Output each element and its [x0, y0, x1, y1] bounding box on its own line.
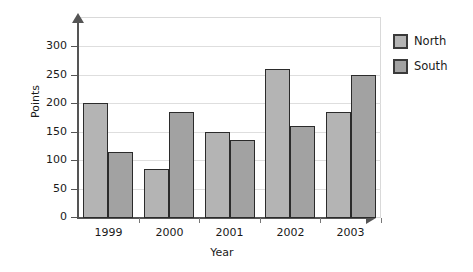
x-axis-tick-label: 1999 [78, 226, 139, 239]
x-axis-tick [381, 218, 382, 223]
legend-label-north: North [414, 35, 446, 47]
bar-north-1999 [83, 103, 108, 218]
y-axis-tick-label: 150 [46, 126, 67, 137]
y-axis-tick [71, 217, 77, 218]
y-axis-tick-label: 250 [46, 69, 67, 80]
legend-item-north[interactable]: North [393, 33, 447, 49]
y-axis-tick-label: 200 [46, 97, 67, 108]
chart-legend: North South [393, 33, 447, 83]
x-axis-tick-label: 2002 [260, 226, 321, 239]
bar-north-2003 [326, 112, 351, 218]
gridline [78, 75, 381, 76]
bar-south-2000 [169, 112, 194, 218]
x-axis-tick-label: 2000 [139, 226, 200, 239]
y-axis-tick-label: 0 [60, 211, 67, 222]
bar-south-2002 [290, 126, 315, 218]
bar-north-2002 [265, 69, 290, 218]
y-axis-tick [71, 160, 77, 161]
legend-label-south: South [414, 60, 447, 72]
bar-south-1999 [108, 152, 133, 218]
x-axis-tick [320, 218, 321, 223]
y-axis-tick-label: 50 [53, 183, 67, 194]
y-axis-tick-label: 100 [46, 154, 67, 165]
y-axis-tick [71, 103, 77, 104]
bar-south-2001 [230, 140, 255, 218]
gridline [78, 46, 381, 47]
y-axis-tick [71, 132, 77, 133]
x-axis-title: Year [77, 246, 367, 259]
y-axis-tick-label: 300 [46, 40, 67, 51]
y-axis-title: Points [29, 62, 42, 142]
x-axis-tick [260, 218, 261, 223]
chart-canvas: 050100150200250300 19992000200120022003 … [0, 0, 473, 272]
legend-swatch-south-icon [393, 59, 408, 74]
x-axis-tick [139, 218, 140, 223]
x-axis-tick-label: 2001 [199, 226, 260, 239]
y-axis-line [77, 21, 79, 218]
y-axis-tick [71, 75, 77, 76]
x-axis-tick [199, 218, 200, 223]
y-axis-tick [71, 46, 77, 47]
legend-item-south[interactable]: South [393, 58, 447, 74]
gridline [78, 103, 381, 104]
y-axis-tick [71, 189, 77, 190]
x-axis-tick-label: 2003 [320, 226, 381, 239]
y-axis-arrow-icon [72, 13, 84, 23]
bar-north-2001 [205, 132, 230, 218]
bar-south-2003 [351, 75, 376, 218]
legend-swatch-north-icon [393, 34, 408, 49]
bar-north-2000 [144, 169, 169, 218]
